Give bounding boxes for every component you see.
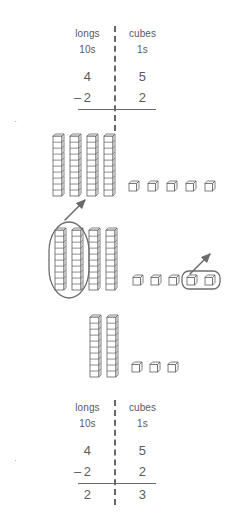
- subheader-tens: 10s: [60, 42, 115, 58]
- subtrahend-ones: 2: [115, 461, 170, 482]
- bottom-place-value-table: longs cubes 10s 1s 4 5 – 2 2 2 3: [60, 400, 170, 505]
- subheader-ones: 1s: [115, 42, 170, 58]
- cubes-removal-arrow: [190, 254, 210, 274]
- long-rod: [72, 228, 83, 290]
- subtrahend-ones: 2: [115, 87, 170, 108]
- stray-mark: ·: [14, 116, 17, 126]
- minuend-row: 4 5: [60, 66, 170, 87]
- long-rod: [106, 228, 117, 290]
- unit-cube: [168, 362, 178, 372]
- long-rod: [90, 315, 101, 377]
- unit-cube: [167, 181, 177, 191]
- cubes-removal-ring: [182, 271, 220, 289]
- subheader-tens: 10s: [60, 416, 115, 432]
- top-place-value-table: longs cubes 10s 1s 4 5 – 2 2: [60, 26, 170, 131]
- subheader-ones: 1s: [115, 416, 170, 432]
- unit-cube: [132, 362, 142, 372]
- stray-mark: ·: [14, 455, 17, 465]
- minus-operator: –: [74, 461, 81, 482]
- header-longs: longs: [60, 400, 115, 416]
- difference-tens: 2: [60, 484, 115, 505]
- unit-cube: [205, 181, 215, 191]
- minuend-tens: 4: [60, 440, 115, 461]
- header-longs: longs: [60, 26, 115, 42]
- longs-removal-arrow: [65, 200, 85, 220]
- long-rod: [53, 134, 64, 196]
- unit-cube: [187, 275, 197, 285]
- subtrahend-row: – 2 2: [60, 461, 170, 482]
- subtrahend-tens: 2: [84, 464, 91, 479]
- unit-cube: [205, 275, 215, 285]
- long-rod: [104, 134, 115, 196]
- unit-cube: [150, 362, 160, 372]
- difference-row: [60, 110, 170, 131]
- minuend-ones: 5: [115, 66, 170, 87]
- minuend-row: 4 5: [60, 440, 170, 461]
- block-row-start: [53, 134, 215, 196]
- minus-operator: –: [74, 87, 81, 108]
- unit-cube: [169, 275, 179, 285]
- header-cubes: cubes: [115, 26, 170, 42]
- subtrahend-tens-cell: – 2: [60, 461, 115, 482]
- long-rod: [70, 134, 81, 196]
- difference-ones: 3: [115, 484, 170, 505]
- block-row-result: [90, 315, 178, 377]
- minuend-tens: 4: [60, 66, 115, 87]
- long-rod: [55, 228, 66, 290]
- table-subheader-row: 10s 1s: [60, 42, 170, 58]
- unit-cube: [186, 181, 196, 191]
- longs-removal-ring: [49, 222, 89, 298]
- unit-cube: [151, 275, 161, 285]
- subtrahend-tens-cell: – 2: [60, 87, 115, 108]
- difference-row: 2 3: [60, 484, 170, 505]
- subtrahend-tens: 2: [84, 90, 91, 105]
- long-rod: [89, 228, 100, 290]
- difference-tens: [60, 110, 115, 131]
- block-row-take-away: [49, 200, 220, 298]
- unit-cube: [148, 181, 158, 191]
- table-header-row: longs cubes: [60, 26, 170, 42]
- minuend-ones: 5: [115, 440, 170, 461]
- long-rod: [87, 134, 98, 196]
- unit-cube: [133, 275, 143, 285]
- long-rod: [107, 315, 118, 377]
- unit-cube: [129, 181, 139, 191]
- subtrahend-row: – 2 2: [60, 87, 170, 108]
- header-cubes: cubes: [115, 400, 170, 416]
- table-subheader-row: 10s 1s: [60, 416, 170, 432]
- table-header-row: longs cubes: [60, 400, 170, 416]
- difference-ones: [115, 110, 170, 131]
